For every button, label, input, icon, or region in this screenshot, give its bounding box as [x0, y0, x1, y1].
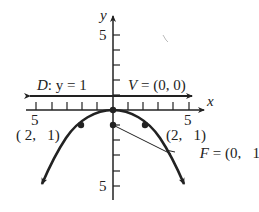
focus-point	[110, 122, 116, 128]
y-axis-label: y	[98, 7, 107, 23]
parabola-curve	[113, 110, 184, 184]
point-right	[142, 122, 148, 128]
vertex-point	[110, 107, 116, 113]
parabola-curve-left	[42, 110, 113, 184]
point-left	[78, 122, 84, 128]
vertex-label: V = (0, 0)	[128, 77, 186, 94]
x-axis-label: x	[206, 93, 214, 109]
x-tick-label-left: 5	[31, 112, 39, 128]
directrix-label: D: y = 1	[36, 77, 87, 93]
parabola-diagram: y 5 5 D: y = 1 x 5 5 V = (0, 0) ( 2, 1) …	[0, 0, 259, 212]
point-right-label: (2, 1)	[166, 127, 206, 144]
x-tick-label-right: 5	[184, 112, 192, 128]
focus-label: F = (0, 1)	[181, 145, 259, 162]
scan-artifact	[163, 35, 168, 42]
y-tick-label-top: 5	[99, 27, 107, 43]
point-left-label: ( 2, 1)	[16, 127, 60, 144]
y-tick-label-bottom: 5	[99, 178, 107, 194]
